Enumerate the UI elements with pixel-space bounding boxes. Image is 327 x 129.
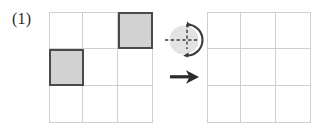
result-grid — [207, 12, 311, 123]
result-cell-r2c3[interactable] — [276, 49, 311, 86]
transform-arrow — [168, 66, 202, 88]
result-cell-r3c3[interactable] — [276, 86, 311, 123]
arrow-right-icon — [170, 70, 199, 84]
result-cell-r2c1[interactable] — [207, 49, 241, 86]
grid-cell-r2c2[interactable] — [83, 49, 118, 86]
result-cell-r3c1[interactable] — [207, 86, 241, 123]
result-cell-r3c2[interactable] — [241, 86, 276, 123]
item-label: (1) — [12, 11, 31, 27]
figure-panel: (1) — [0, 0, 327, 129]
shaded-cell-r2c1[interactable] — [49, 49, 84, 86]
result-cell-r2c2[interactable] — [241, 49, 276, 86]
grid-cell-r2c3[interactable] — [118, 49, 153, 86]
result-cell-r1c1[interactable] — [207, 12, 241, 49]
source-grid — [49, 12, 153, 123]
grid-cell-r1c1[interactable] — [49, 12, 83, 49]
result-cell-r1c3[interactable] — [276, 12, 311, 49]
grid-cell-r3c3[interactable] — [118, 86, 153, 123]
rotation-symbol — [164, 19, 206, 61]
grid-cell-r3c1[interactable] — [49, 86, 83, 123]
grid-cell-r1c2[interactable] — [83, 12, 118, 49]
result-cell-r1c2[interactable] — [241, 12, 276, 49]
shaded-cell-r1c3[interactable] — [118, 12, 153, 49]
grid-cell-r3c2[interactable] — [83, 86, 118, 123]
